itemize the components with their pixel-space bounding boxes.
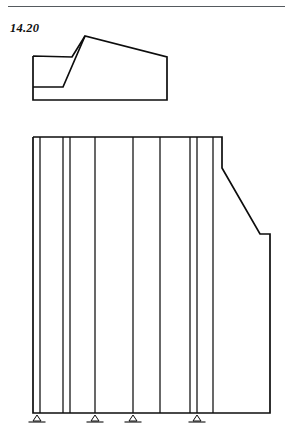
support-triangle-3: [129, 415, 137, 421]
support-symbol-1: [29, 415, 46, 422]
support-triangle-2: [91, 415, 99, 421]
support-triangle-1: [33, 415, 41, 421]
support-symbol-4: [189, 415, 206, 422]
upper-profile-inner-edge: [33, 36, 85, 87]
support-symbol-2: [87, 415, 104, 422]
support-symbol-3: [125, 415, 142, 422]
support-triangle-4: [193, 415, 201, 421]
support-symbol-group: [29, 415, 206, 422]
lower-elevation-group: [33, 137, 270, 413]
technical-drawing: [0, 0, 293, 442]
lower-elevation-outline: [33, 137, 270, 413]
upper-profile-group: [33, 36, 167, 100]
figure-page: 14.20: [0, 0, 293, 442]
upper-profile-outline: [33, 36, 167, 100]
